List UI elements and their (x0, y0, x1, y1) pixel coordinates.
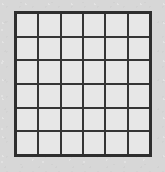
grid-cell[interactable] (17, 14, 37, 36)
grid-cell[interactable] (84, 132, 104, 154)
square-grid[interactable] (14, 11, 152, 157)
grid-cell[interactable] (17, 85, 37, 107)
grid-cell[interactable] (106, 61, 126, 83)
grid-cell[interactable] (62, 38, 82, 60)
grid-cell[interactable] (129, 14, 149, 36)
grid-cell[interactable] (17, 38, 37, 60)
grid-cell[interactable] (62, 85, 82, 107)
grid-cell[interactable] (129, 38, 149, 60)
grid-cell[interactable] (62, 132, 82, 154)
grid-cell[interactable] (62, 14, 82, 36)
grid-cell[interactable] (84, 14, 104, 36)
grid-cell[interactable] (106, 85, 126, 107)
grid-cell[interactable] (84, 38, 104, 60)
grid-cell[interactable] (62, 61, 82, 83)
grid-cell[interactable] (17, 109, 37, 131)
grid-cell[interactable] (106, 109, 126, 131)
grid-cell[interactable] (39, 38, 59, 60)
grid-cell[interactable] (62, 109, 82, 131)
grid-cell[interactable] (129, 85, 149, 107)
grid-cell[interactable] (106, 14, 126, 36)
grid-cell[interactable] (129, 109, 149, 131)
grid-cell[interactable] (84, 109, 104, 131)
grid-cell[interactable] (129, 61, 149, 83)
grid-cell[interactable] (39, 61, 59, 83)
grid-cell[interactable] (106, 38, 126, 60)
grid-cell[interactable] (39, 14, 59, 36)
grid-cell[interactable] (106, 132, 126, 154)
grid-cell[interactable] (129, 132, 149, 154)
grid-cell[interactable] (17, 61, 37, 83)
grid-cell[interactable] (39, 132, 59, 154)
grid-cell[interactable] (17, 132, 37, 154)
grid-cell[interactable] (84, 61, 104, 83)
figure-canvas (0, 0, 165, 172)
grid-cell[interactable] (39, 85, 59, 107)
grid-cell[interactable] (39, 109, 59, 131)
grid-cell[interactable] (84, 85, 104, 107)
